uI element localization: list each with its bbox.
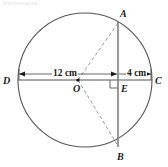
arrowhead-left-12cm [19, 72, 25, 77]
point-label-E: E [121, 84, 128, 94]
arrowhead-right-12cm [111, 72, 117, 77]
right-angle-mark-at-E [110, 80, 118, 88]
point-label-B: B [117, 152, 124, 162]
radius-line-OA-dashed [78, 23, 118, 80]
center-dot-O [76, 78, 79, 81]
point-label-D: D [3, 76, 10, 86]
dimension-label-4cm: 4 cm [126, 69, 147, 79]
point-label-A: A [120, 9, 127, 19]
geometry-figure: Mathematics A B C D [0, 0, 168, 167]
dimension-label-12cm: 12 cm [52, 69, 78, 79]
radius-line-OB-dashed [78, 80, 118, 146]
point-label-O: O [73, 84, 80, 94]
geometry-canvas [0, 0, 168, 167]
point-label-C: C [155, 76, 162, 86]
